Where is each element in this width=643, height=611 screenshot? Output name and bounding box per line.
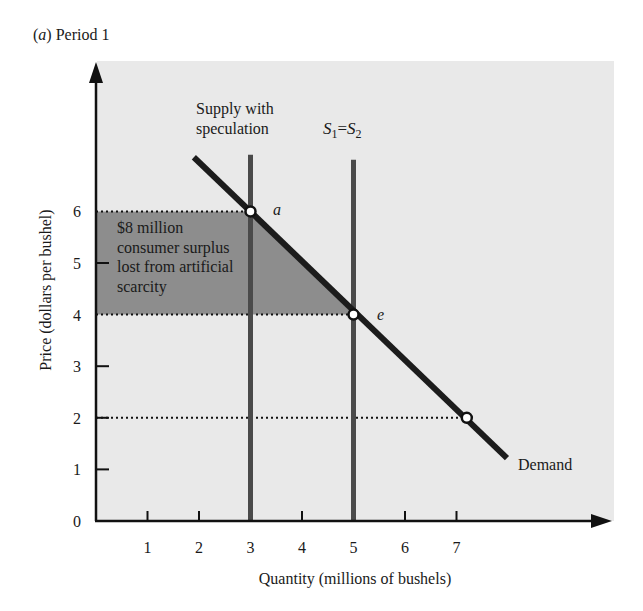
y-tick-label: 4: [73, 307, 81, 324]
y-axis-label: Price (dollars per bushel): [37, 209, 55, 370]
point-marker: [349, 310, 359, 320]
x-tick-label: 5: [350, 539, 358, 556]
x-tick-label: 2: [195, 539, 203, 556]
x-tick-label: 4: [298, 539, 306, 556]
y-tick-label: 1: [73, 461, 81, 478]
y-tick-label: 3: [73, 358, 81, 375]
x-tick-label: 1: [144, 539, 152, 556]
x-tick-label: 7: [453, 539, 461, 556]
point-e-label: e: [377, 306, 384, 323]
point-marker: [462, 413, 472, 423]
y-tick-label: 6: [73, 203, 81, 220]
demand-label: Demand: [518, 456, 572, 473]
x-tick-label: 6: [401, 539, 409, 556]
supply-demand-chart: $8 millionconsumer surpluslost from arti…: [0, 0, 643, 611]
point-a-label: a: [273, 201, 281, 218]
y-tick-label: 5: [73, 255, 81, 272]
x-axis-label: Quantity (millions of bushels): [259, 570, 451, 588]
point-marker: [246, 206, 256, 216]
x-tick-label: 3: [247, 539, 255, 556]
y-tick-label: 0: [73, 513, 81, 530]
y-tick-label: 2: [73, 410, 81, 427]
